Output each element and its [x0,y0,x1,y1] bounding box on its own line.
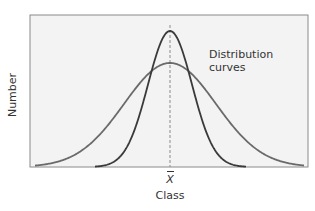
mean-tick-label: X [160,171,180,186]
annotation-line-1: Distribution [209,48,273,61]
distribution-chart [0,0,315,211]
mean-symbol: X [166,173,174,186]
plot-frame [30,15,308,167]
annotation-line-2: curves [209,61,273,74]
x-axis-label: Class [150,189,190,202]
y-axis-label: Number [2,70,22,120]
curves-annotation: Distribution curves [209,48,273,74]
overbar [167,171,174,172]
y-axis-label-text: Number [6,73,19,117]
